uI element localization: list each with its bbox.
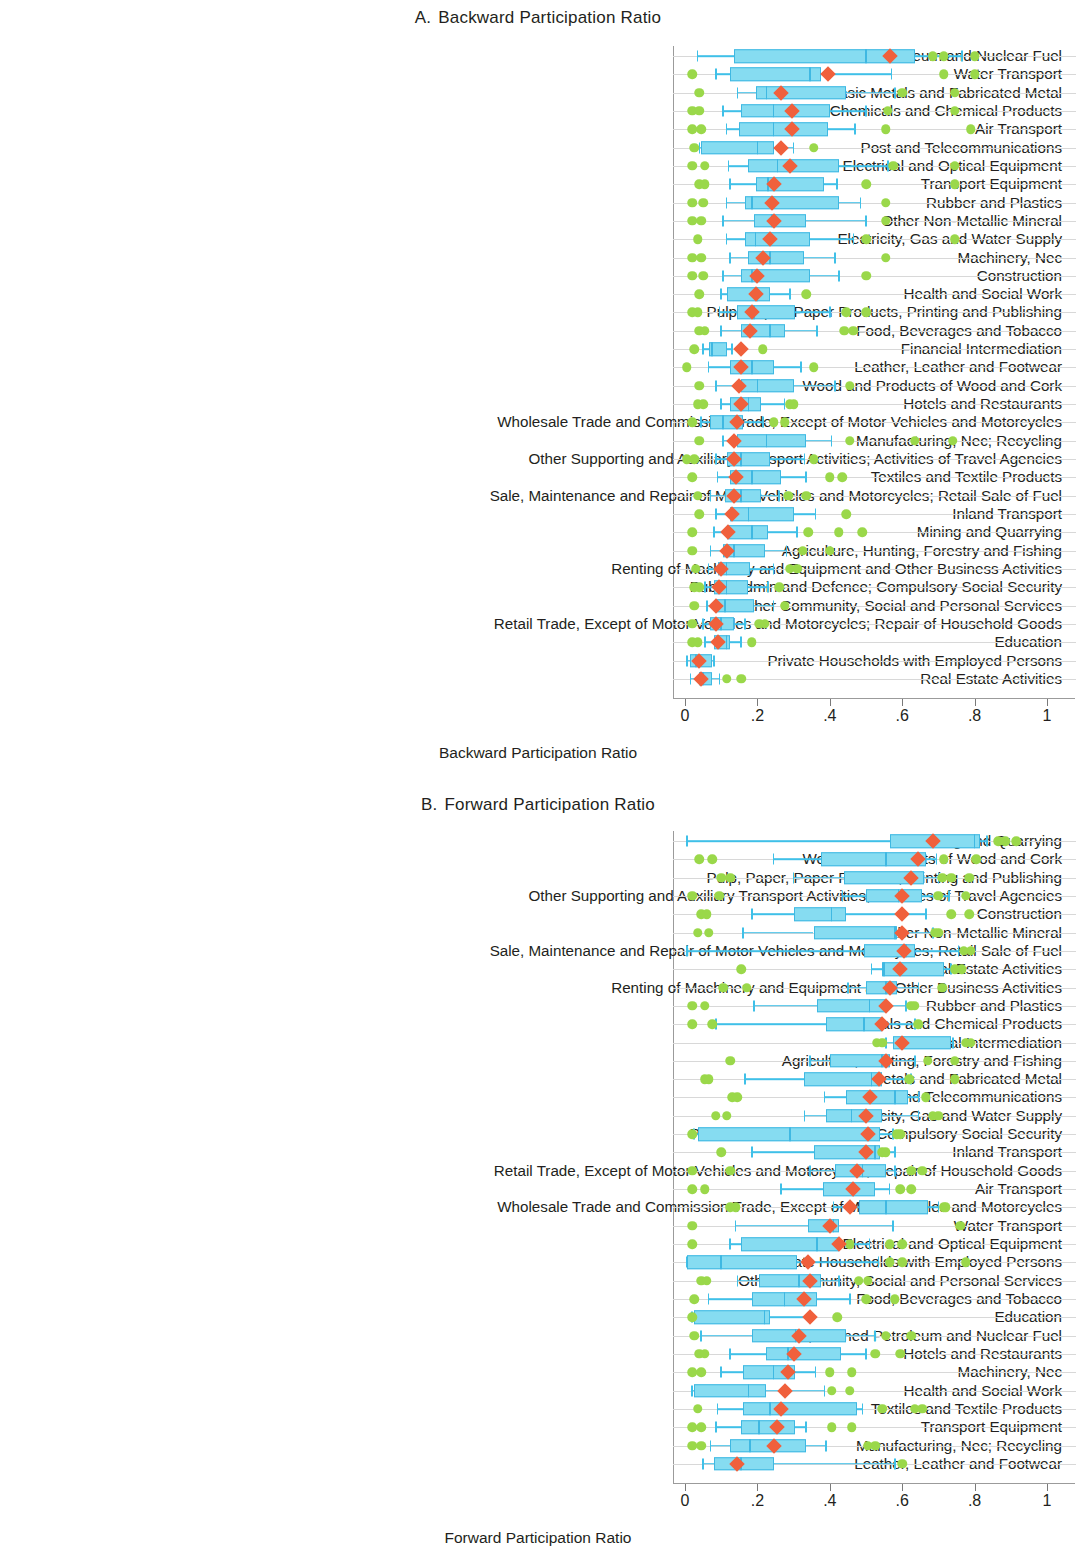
outlier-point [687, 1221, 697, 1231]
cap-upper [936, 854, 938, 865]
cap-lower [699, 142, 701, 153]
whisker-upper [761, 403, 785, 405]
whisker-lower [824, 1097, 846, 1099]
cap-lower [702, 344, 704, 355]
whisker-upper [817, 1298, 850, 1300]
outlier-point [780, 601, 790, 611]
median-line [974, 834, 976, 848]
outlier-point [885, 1239, 895, 1249]
median-line [711, 342, 713, 356]
outlier-point [802, 491, 812, 501]
whisker-upper [806, 220, 866, 222]
outlier-point [687, 271, 697, 281]
cap-lower [708, 1294, 710, 1305]
whisker-lower [842, 895, 866, 897]
cap-upper [894, 1165, 896, 1176]
outlier-point [689, 454, 699, 464]
cap-lower [753, 1000, 755, 1011]
cap-lower [804, 1110, 806, 1121]
box-iqr [859, 1201, 928, 1215]
outlier-point [687, 1001, 697, 1011]
outlier-point [697, 1368, 707, 1378]
median-line [748, 1384, 750, 1398]
cap-upper [853, 234, 855, 245]
cap-upper [860, 197, 862, 208]
outlier-point [861, 179, 871, 189]
cap-upper [778, 490, 780, 501]
box-plot-row [0, 888, 1076, 904]
cap-lower [704, 637, 706, 648]
box-plot-row [0, 961, 1076, 977]
cap-lower [728, 160, 730, 171]
cap-upper [816, 325, 818, 336]
cap-upper [914, 1055, 916, 1066]
median-line [789, 1127, 791, 1141]
box-plot-row [0, 250, 1076, 266]
cap-upper [854, 124, 856, 135]
cap-lower [809, 1055, 811, 1066]
outlier-point [693, 637, 703, 647]
outlier-point [693, 928, 703, 938]
outlier-point [769, 418, 779, 428]
box-iqr [737, 434, 806, 448]
whisker-lower [687, 950, 864, 952]
x-axis-tick [902, 1484, 903, 1491]
box-plot-row [0, 451, 1076, 467]
box-plot-row [0, 561, 1076, 577]
box-plot-row [0, 1181, 1076, 1197]
box-plot-row [0, 66, 1076, 82]
whisker-upper [828, 128, 855, 130]
outlier-point [870, 1441, 880, 1451]
outlier-point [858, 528, 868, 538]
box-plot-row [0, 1364, 1076, 1380]
x-axis-tick [757, 699, 758, 706]
outlier-point [700, 1184, 710, 1194]
median-line [809, 68, 811, 82]
cap-upper [865, 215, 867, 226]
cap-upper [831, 435, 833, 446]
cap-upper [862, 1403, 864, 1414]
box-plot-row [0, 396, 1076, 412]
outlier-point [687, 1313, 697, 1323]
cap-lower [715, 380, 717, 391]
cap-upper [834, 252, 836, 263]
median-line [766, 86, 768, 100]
box-iqr [687, 1256, 797, 1270]
cap-lower [847, 982, 849, 993]
median-line [724, 599, 726, 613]
outlier-point [700, 326, 710, 336]
whisker-lower [848, 987, 866, 989]
outlier-point [827, 1422, 837, 1432]
outlier-point [888, 161, 898, 171]
outlier-point [687, 1166, 697, 1176]
box-plot-row [0, 943, 1076, 959]
cap-lower [715, 69, 717, 80]
whisker-lower [730, 183, 755, 185]
median-line [883, 962, 885, 976]
box-plot-row [0, 1346, 1076, 1362]
box-plot-row [0, 1053, 1076, 1069]
mean-diamond-marker [802, 1310, 818, 1326]
box-plot-row [0, 851, 1076, 867]
outlier-point [700, 179, 710, 189]
box-plot-row [0, 998, 1076, 1014]
cap-upper [891, 69, 893, 80]
cap-upper [719, 673, 721, 684]
x-axis-tick [830, 699, 831, 706]
whisker-lower [737, 1280, 759, 1282]
box-plot-row [0, 906, 1076, 922]
box-plot-row [0, 598, 1076, 614]
outlier-point [961, 891, 971, 901]
outlier-point [950, 179, 960, 189]
cap-lower [719, 307, 721, 318]
box-plot-row [0, 1071, 1076, 1087]
x-axis-tick-label: .8 [968, 707, 981, 725]
cap-lower [715, 509, 717, 520]
cap-lower [697, 51, 699, 62]
cap-lower [751, 909, 753, 920]
outlier-point [747, 637, 757, 647]
box-plot-row [0, 653, 1076, 669]
whisker-lower [709, 367, 731, 369]
median-line [831, 908, 833, 922]
x-axis-tick-label: 0 [681, 1492, 690, 1510]
